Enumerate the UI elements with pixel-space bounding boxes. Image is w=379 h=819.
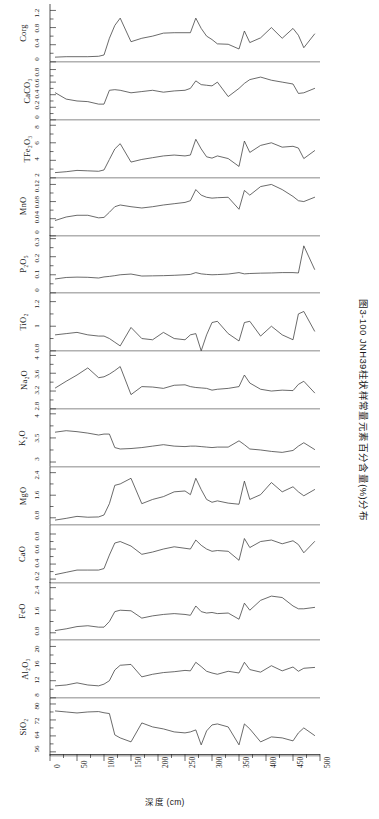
x-tick-label: 250 xyxy=(188,757,197,768)
y-tick-label: 72 xyxy=(33,717,41,724)
x-tick-label: 50 xyxy=(80,761,89,769)
plot-area-feo xyxy=(50,582,320,640)
y-tick-label: 0.08 xyxy=(33,196,41,208)
panel-tio2: TiO₂0.811.2 xyxy=(0,293,330,351)
y-axis-tick-labels-k2o: 33.54 xyxy=(26,409,48,467)
plot-area-k2o xyxy=(50,409,320,467)
series-line-mno xyxy=(55,184,314,220)
figure-caption: 图3-100 JNH39柱状样常量元素百分含量(%)分布 xyxy=(351,0,377,819)
y-tick-label: 8 xyxy=(33,693,41,697)
plot-area-p2o5 xyxy=(50,235,320,293)
y-tick-label: 1.6 xyxy=(33,606,41,615)
x-tick-label: 450 xyxy=(296,757,305,768)
y-axis-tick-labels-caco3: 00.20.40.60.8 xyxy=(26,62,48,120)
figure-container: Corg00.40.81.2CaCO₃00.20.40.60.8TFe₂O₃24… xyxy=(0,0,379,819)
y-axis-tick-labels-mgo: 0.81.62.4 xyxy=(26,467,48,525)
y-axis-tick-labels-mno: 00.040.080.12 xyxy=(26,178,48,236)
plot-area-tfe2o3 xyxy=(50,120,320,178)
series-line-p2o5 xyxy=(55,246,314,279)
y-tick-label: 0 xyxy=(33,115,41,119)
y-tick-label: 1.2 xyxy=(33,8,41,17)
y-tick-label: 3 xyxy=(33,458,41,462)
y-tick-label: 0 xyxy=(33,57,41,61)
panel-sio2: SiO₂56647280 xyxy=(0,698,330,756)
plot-area-corg xyxy=(50,4,320,62)
y-tick-label: 0.2 xyxy=(33,572,41,581)
y-axis-tick-labels-p2o5: 00.10.20.3 xyxy=(26,235,48,293)
y-tick-label: 3.5 xyxy=(33,433,41,442)
y-tick-label: 2.4 xyxy=(33,470,41,479)
series-line-na2o xyxy=(55,367,314,395)
y-tick-label: 0.12 xyxy=(33,180,41,192)
x-axis-title: 深度 (cm) xyxy=(0,795,330,807)
y-tick-label: 0.2 xyxy=(33,253,41,262)
y-axis-tick-labels-feo: 0.81.62.4 xyxy=(26,582,48,640)
panel-feo: FeO0.81.62.4 xyxy=(0,582,330,640)
plot-area-cao xyxy=(50,525,320,583)
y-axis-tick-labels-tio2: 0.811.2 xyxy=(26,293,48,351)
y-tick-label: 0.2 xyxy=(33,101,41,110)
x-tick-label: 300 xyxy=(215,757,224,768)
plot-area-na2o xyxy=(50,351,320,409)
x-tick-label: 200 xyxy=(161,757,170,768)
x-axis-tick-labels: 050100150200250300350400450500 xyxy=(50,768,320,798)
series-line-tio2 xyxy=(55,312,314,351)
x-tick-label: 150 xyxy=(134,757,143,768)
y-tick-label: 0.6 xyxy=(33,79,41,88)
y-tick-label: 1 xyxy=(33,324,41,328)
panel-na2o: Na₂O2.83.23.64 xyxy=(0,351,330,409)
y-tick-label: 0.4 xyxy=(33,39,41,48)
y-tick-label: 64 xyxy=(33,732,41,739)
y-tick-label: 1.6 xyxy=(33,491,41,500)
series-line-corg xyxy=(55,18,314,57)
series-line-tfe2o3 xyxy=(55,139,314,172)
y-tick-label: 0 xyxy=(33,288,41,292)
y-tick-label: 8 xyxy=(33,126,41,130)
plot-area-caco3 xyxy=(50,62,320,120)
y-tick-label: 80 xyxy=(33,703,41,710)
y-tick-label: 12 xyxy=(33,676,41,683)
panel-p2o5: P₂O₅00.10.20.3 xyxy=(0,235,330,293)
y-tick-label: 0.3 xyxy=(33,237,41,246)
series-line-caco3 xyxy=(55,77,314,104)
y-axis-tick-labels-na2o: 2.83.23.64 xyxy=(26,351,48,409)
series-line-mgo xyxy=(55,478,314,520)
panel-cao: CaO0.20.40.60.8 xyxy=(0,525,330,583)
panel-mgo: MgO0.81.62.4 xyxy=(0,467,330,525)
y-tick-label: 0.8 xyxy=(33,511,41,520)
y-tick-label: 0.8 xyxy=(33,531,41,540)
y-tick-label: 0.04 xyxy=(33,211,41,223)
x-tick-label: 400 xyxy=(269,757,278,768)
y-tick-label: 0.8 xyxy=(33,67,41,76)
y-tick-label: 0.1 xyxy=(33,270,41,279)
plot-area-mno xyxy=(50,178,320,236)
series-line-k2o xyxy=(55,431,314,453)
y-tick-label: 0.4 xyxy=(33,90,41,99)
panel-stack: Corg00.40.81.2CaCO₃00.20.40.60.8TFe₂O₃24… xyxy=(0,4,330,756)
series-line-sio2 xyxy=(55,711,314,745)
y-tick-label: 0.8 xyxy=(33,24,41,33)
series-line-al2o3 xyxy=(55,663,314,687)
plot-area-sio2 xyxy=(50,698,320,756)
y-tick-label: 1.2 xyxy=(33,300,41,309)
y-axis-tick-labels-al2o3: 8121620 xyxy=(26,640,48,698)
y-tick-label: 4 xyxy=(33,356,41,360)
y-tick-label: 3.6 xyxy=(33,370,41,379)
y-tick-label: 0.6 xyxy=(33,545,41,554)
panel-tfe2o3: TFe₂O₃2468 xyxy=(0,120,330,178)
y-tick-label: 56 xyxy=(33,746,41,753)
y-tick-label: 4 xyxy=(33,414,41,418)
y-tick-label: 0 xyxy=(33,231,41,235)
y-axis-tick-labels-corg: 00.40.81.2 xyxy=(26,4,48,62)
x-tick-label: 350 xyxy=(242,757,251,768)
y-tick-label: 20 xyxy=(33,646,41,653)
plot-area-tio2 xyxy=(50,293,320,351)
y-tick-label: 6 xyxy=(33,141,41,145)
y-tick-label: 2.4 xyxy=(33,586,41,595)
y-tick-label: 16 xyxy=(33,661,41,668)
panel-caco3: CaCO₃00.20.40.60.8 xyxy=(0,62,330,120)
y-tick-label: 0.8 xyxy=(33,627,41,636)
y-axis-tick-labels-cao: 0.20.40.60.8 xyxy=(26,525,48,583)
x-tick-label: 500 xyxy=(323,757,332,768)
panel-k2o: K₂O33.54 xyxy=(0,409,330,467)
